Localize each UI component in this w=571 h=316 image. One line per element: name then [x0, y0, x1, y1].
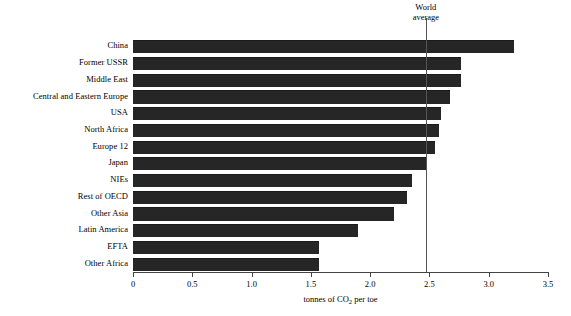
- x-axis-tick-label: 1.0: [232, 279, 272, 289]
- bar: [133, 157, 426, 170]
- category-axis-labels: China Former USSR Middle East Central an…: [0, 38, 128, 272]
- bar: [133, 207, 394, 220]
- x-axis-tick: [311, 272, 312, 277]
- category-label: EFTA: [0, 242, 128, 251]
- bar: [133, 191, 407, 204]
- x-axis-tick: [429, 272, 430, 277]
- bar: [133, 90, 450, 103]
- x-axis-title-tail: per toe: [352, 294, 378, 304]
- bar: [133, 124, 439, 137]
- x-axis-tick-label: 0: [113, 279, 153, 289]
- category-label: NIEs: [0, 175, 128, 184]
- x-axis-title: tonnes of CO2 per toe: [133, 294, 548, 305]
- bar: [133, 40, 514, 53]
- x-axis-tick: [370, 272, 371, 277]
- bar: [133, 57, 461, 70]
- plot-area: [133, 38, 548, 272]
- x-axis-tick-label: 2.0: [350, 279, 390, 289]
- category-label: Latin America: [0, 225, 128, 234]
- bar: [133, 107, 441, 120]
- x-axis-tick-label: 0.5: [172, 279, 212, 289]
- category-label: Former USSR: [0, 58, 128, 67]
- x-axis-title-main: tonnes of CO: [303, 294, 348, 304]
- bar-chart: China Former USSR Middle East Central an…: [0, 0, 571, 316]
- category-label: Rest of OECD: [0, 192, 128, 201]
- category-label: China: [0, 41, 128, 50]
- category-label: Europe 12: [0, 142, 128, 151]
- category-label: USA: [0, 108, 128, 117]
- category-label: Other Asia: [0, 209, 128, 218]
- bar: [133, 224, 358, 237]
- x-axis-tick-label: 3.0: [469, 279, 509, 289]
- world-average-line2: average: [391, 12, 461, 22]
- category-label: Other Africa: [0, 259, 128, 268]
- category-label: Japan: [0, 158, 128, 167]
- world-average-line: [426, 18, 427, 272]
- x-axis-tick: [489, 272, 490, 277]
- bar: [133, 174, 412, 187]
- x-axis-tick: [192, 272, 193, 277]
- x-axis-tick: [133, 272, 134, 277]
- category-label: Middle East: [0, 75, 128, 84]
- bar: [133, 141, 435, 154]
- x-axis-tick-label: 2.5: [409, 279, 449, 289]
- x-axis-tick: [548, 272, 549, 277]
- x-axis-title-subscript: 2: [349, 298, 352, 305]
- bar: [133, 74, 461, 87]
- x-axis-tick: [252, 272, 253, 277]
- category-label: North Africa: [0, 125, 128, 134]
- world-average-annotation: World average: [391, 2, 461, 22]
- bar: [133, 258, 319, 271]
- x-axis-tick-label: 1.5: [291, 279, 331, 289]
- x-axis-tick-label: 3.5: [528, 279, 568, 289]
- world-average-line1: World: [391, 2, 461, 12]
- x-axis-line: [133, 272, 548, 273]
- bar: [133, 241, 319, 254]
- category-label: Central and Eastern Europe: [0, 92, 128, 101]
